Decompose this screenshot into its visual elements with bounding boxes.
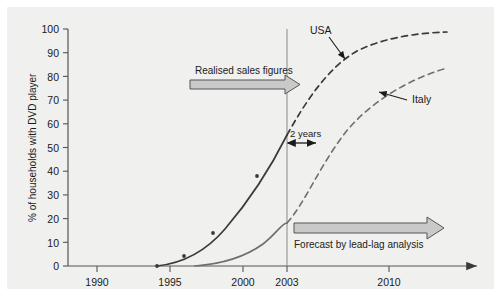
x-tick-2000: 2000 [220,277,266,288]
x-axis-ticks [97,266,389,272]
usa-actual-curve [157,135,287,266]
two-year-gap-label: 2 years [290,129,321,139]
realised-sales-label: Realised sales figures [195,66,293,76]
y-tick-0: 0 [33,261,59,272]
y-tick-30: 30 [33,190,59,201]
usa-forecast-curve [287,32,447,135]
y-tick-10: 10 [33,238,59,249]
y-tick-60: 60 [33,119,59,130]
x-tick-1990: 1990 [74,277,120,288]
usa-series-label: USA [310,25,332,36]
x-tick-1995: 1995 [147,277,193,288]
forecast-arrow-icon [294,217,444,239]
y-tick-70: 70 [33,95,59,106]
x-tick-2003: 2003 [264,277,310,288]
chart-canvas: % of households with DVD player 100 90 8… [0,0,501,296]
y-tick-50: 50 [33,143,59,154]
y-tick-100: 100 [33,24,59,35]
forecast-label: Forecast by lead-lag analysis [294,240,424,250]
realised-sales-arrow-icon [190,75,300,94]
y-tick-80: 80 [33,72,59,83]
y-axis-ticks [63,29,68,266]
usa-leader-line [329,37,345,59]
italy-series-label: Italy [412,94,431,105]
y-tick-40: 40 [33,166,59,177]
dvd-adoption-line-chart [7,7,501,296]
usa-data-markers [155,174,259,268]
x-tick-2010: 2010 [366,277,412,288]
y-tick-90: 90 [33,48,59,59]
y-tick-20: 20 [33,214,59,225]
